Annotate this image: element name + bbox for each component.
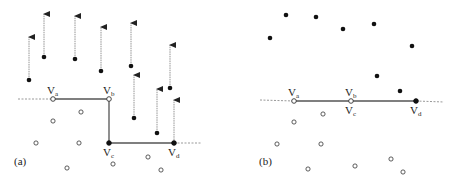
vertex-label-vd: Vd [168, 146, 180, 160]
filled-point [410, 44, 415, 49]
open-point [34, 141, 38, 145]
filled-point [341, 27, 346, 32]
vertex-label-va: Va [288, 86, 300, 100]
open-point [319, 142, 323, 146]
open-point [51, 119, 55, 123]
open-point [275, 142, 279, 146]
dashed-extension-right [416, 101, 444, 102]
open-point [321, 112, 325, 116]
dashed-extension-left [260, 100, 294, 101]
vertex-vd [172, 141, 177, 146]
open-point [159, 168, 163, 172]
filled-point [155, 131, 160, 136]
diagram-figure: VaVbVcVd(a) VaVbVcVd(b) [0, 0, 464, 183]
vertex-label-vb: Vb [345, 86, 357, 100]
vertex-vc [107, 141, 112, 146]
vertex-label-vc: Vc [345, 104, 356, 118]
filled-point [375, 74, 380, 79]
filled-point [129, 64, 134, 69]
open-point [79, 110, 83, 114]
vertex-vd [414, 99, 419, 104]
filled-point [314, 15, 319, 20]
filled-point [73, 57, 78, 62]
chain-path [53, 99, 174, 143]
vertex-label-vc: Vc [103, 146, 114, 160]
vertex-label-vd: Vd [410, 104, 422, 118]
filled-point [132, 116, 137, 121]
filled-point [27, 78, 32, 83]
vertex-label-va: Va [47, 84, 59, 98]
open-point [111, 162, 115, 166]
open-point [401, 170, 405, 174]
filled-point [42, 55, 47, 60]
filled-point [168, 86, 173, 91]
filled-point [284, 13, 289, 18]
open-point [353, 164, 357, 168]
open-point [77, 141, 81, 145]
panel-b: VaVbVcVd(b) [259, 13, 444, 174]
open-point [389, 157, 393, 161]
panel-a: VaVbVcVd(a) [14, 14, 202, 172]
filled-point [99, 69, 104, 74]
open-point [306, 167, 310, 171]
open-point [65, 166, 69, 170]
panel-label: (b) [259, 155, 272, 168]
filled-point [372, 22, 377, 27]
vertex-label-vb: Vb [103, 84, 115, 98]
panel-label: (a) [14, 155, 27, 168]
open-point [292, 120, 296, 124]
filled-point [268, 36, 273, 41]
filled-point [398, 89, 403, 94]
open-point [146, 155, 150, 159]
